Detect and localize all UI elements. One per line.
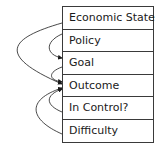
arrow-difficulty-to-outcome — [36, 88, 62, 134]
arrow-economic-state-to-outcome — [17, 23, 62, 84]
arrow-policy-to-goal — [49, 34, 62, 58]
row-in-control: In Control? — [63, 97, 153, 120]
row-policy: Policy — [63, 30, 153, 53]
row-economic-state: Economic State — [63, 7, 153, 30]
row-outcome: Outcome — [63, 75, 153, 98]
variable-stack: Economic State Policy Goal Outcome In Co… — [62, 6, 154, 143]
row-difficulty: Difficulty — [63, 120, 153, 143]
row-goal: Goal — [63, 52, 153, 75]
